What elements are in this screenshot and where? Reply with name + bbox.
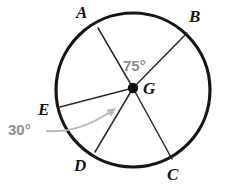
angle-label-agb: 75° xyxy=(123,58,146,73)
angle-label-egd: 30° xyxy=(8,122,31,137)
point-label-e: E xyxy=(38,101,49,118)
radius-GC xyxy=(133,88,172,159)
point-label-d: D xyxy=(74,157,86,174)
point-label-b: B xyxy=(189,8,200,25)
center-point-dot xyxy=(128,83,138,93)
radius-GE xyxy=(60,88,133,107)
center-label-g: G xyxy=(143,80,155,97)
radii-group xyxy=(60,28,187,159)
circle-diagram: A B C D E G 75° 30° xyxy=(0,0,226,189)
point-label-a: A xyxy=(76,4,87,21)
radius-GD xyxy=(95,88,133,152)
geometry-canvas xyxy=(0,0,226,189)
point-label-c: C xyxy=(167,166,178,183)
leader-arrow-30deg xyxy=(47,108,116,131)
leader-arrow-curve xyxy=(47,112,110,131)
